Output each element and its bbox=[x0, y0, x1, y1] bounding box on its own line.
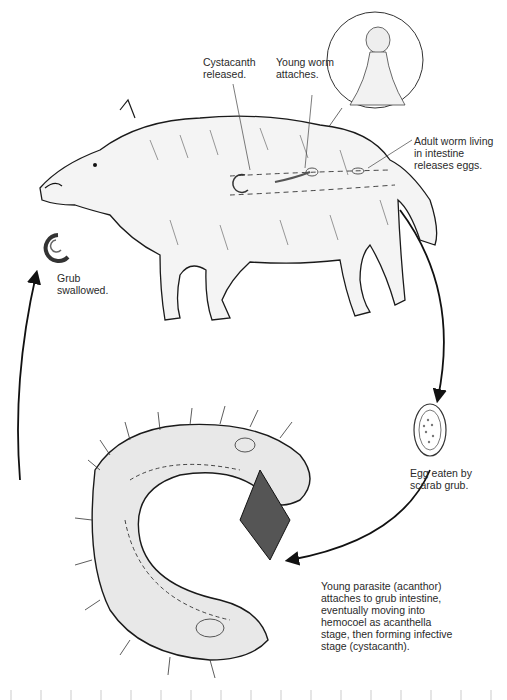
label-young-parasite: Young parasite (acanthor) attaches to gr… bbox=[321, 580, 452, 652]
label-adult-worm: Adult worm living in intestine releases … bbox=[414, 135, 493, 171]
scarab-grub-figure bbox=[75, 406, 310, 678]
bottom-text-fragment bbox=[0, 690, 507, 700]
arrow-egg-to-grub bbox=[290, 470, 430, 560]
arrow-grub-to-boar bbox=[18, 275, 36, 480]
label-young-worm-attaches: Young worm attaches. bbox=[276, 56, 334, 80]
egg-figure bbox=[414, 404, 446, 456]
swallowed-grub-figure bbox=[46, 235, 68, 261]
label-grub-swallowed: Grub swallowed. bbox=[57, 272, 108, 296]
label-egg-eaten: Egg eaten by scarab grub. bbox=[410, 467, 472, 491]
label-cystacanth-released: Cystacanth released. bbox=[203, 56, 256, 80]
